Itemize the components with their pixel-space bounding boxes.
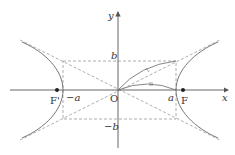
b-label: b (111, 50, 117, 61)
x-axis-label: x (222, 92, 228, 103)
y-axis-label: y (107, 10, 114, 21)
a-label: a (168, 92, 174, 103)
arc-c (118, 61, 176, 90)
focus-left-label: F' (50, 95, 60, 106)
hyperbola-diagram: y x O b −b a −a F F' (0, 0, 235, 155)
origin-label: O (110, 93, 118, 104)
focus-right (181, 88, 185, 92)
focus-right-label: F (181, 95, 188, 106)
focus-left (55, 88, 59, 92)
neg-b-label: −b (104, 121, 119, 132)
neg-a-label: −a (66, 92, 80, 103)
arc-a (118, 84, 176, 90)
